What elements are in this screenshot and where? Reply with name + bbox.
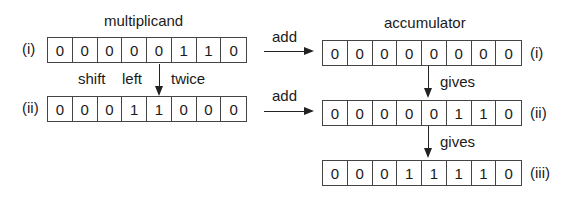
bit-cell: 0	[221, 38, 246, 62]
bit-cell: 0	[397, 41, 422, 65]
bit-cell: 0	[147, 38, 172, 62]
multiplicand-register-i: 0 0 0 0 0 1 1 0	[47, 37, 247, 63]
add-label-i: add	[272, 28, 297, 45]
bit-cell: 0	[496, 101, 521, 125]
bit-cell: 0	[48, 97, 73, 121]
bit-cell: 0	[472, 41, 497, 65]
bit-cell: 0	[496, 41, 521, 65]
gives-label-2: gives	[440, 133, 475, 150]
accumulator-row-label-ii: (ii)	[530, 104, 547, 121]
bit-cell: 1	[197, 38, 222, 62]
accumulator-row-label-i: (i)	[530, 44, 543, 61]
accumulator-register-iii: 0 0 0 1 1 1 1 0	[322, 160, 522, 186]
bit-cell: 0	[397, 101, 422, 125]
bit-cell: 1	[397, 161, 422, 185]
accumulator-register-i: 0 0 0 0 0 0 0 0	[322, 40, 522, 66]
bit-cell: 1	[122, 97, 147, 121]
add-arrow-ii-icon	[264, 111, 312, 112]
bit-cell: 1	[147, 97, 172, 121]
bit-cell: 1	[472, 101, 497, 125]
bit-cell: 0	[323, 41, 348, 65]
bit-cell: 0	[422, 101, 447, 125]
multiplicand-row-label-i: (i)	[22, 40, 35, 57]
bit-cell: 0	[98, 97, 123, 121]
bit-cell: 0	[373, 101, 398, 125]
bit-cell: 0	[373, 41, 398, 65]
add-arrow-i-icon	[264, 51, 312, 52]
bit-cell: 0	[348, 41, 373, 65]
multiplicand-row-label-ii: (ii)	[22, 99, 39, 116]
multiplicand-register-ii: 0 0 0 1 1 0 0 0	[47, 96, 247, 122]
bit-cell: 0	[323, 161, 348, 185]
bit-cell: 0	[496, 161, 521, 185]
bit-cell: 1	[447, 161, 472, 185]
bit-cell: 1	[472, 161, 497, 185]
left-label: left	[122, 70, 142, 87]
multiplicand-title: multiplicand	[104, 12, 183, 29]
bit-cell: 0	[373, 161, 398, 185]
bit-cell: 0	[48, 38, 73, 62]
gives-arrow-1-icon	[428, 66, 429, 96]
shift-down-arrow-icon	[159, 64, 160, 94]
accumulator-title: accumulator	[384, 14, 466, 31]
bit-cell: 0	[348, 161, 373, 185]
accumulator-row-label-iii: (iii)	[530, 164, 550, 181]
accumulator-register-ii: 0 0 0 0 0 1 1 0	[322, 100, 522, 126]
gives-label-1: gives	[440, 73, 475, 90]
add-label-ii: add	[272, 87, 297, 104]
bit-cell: 0	[422, 41, 447, 65]
bit-cell: 0	[221, 97, 246, 121]
bit-cell: 1	[172, 38, 197, 62]
bit-cell: 0	[122, 38, 147, 62]
bit-cell: 0	[98, 38, 123, 62]
bit-cell: 1	[422, 161, 447, 185]
bit-cell: 0	[172, 97, 197, 121]
bit-cell: 0	[197, 97, 222, 121]
bit-cell: 0	[348, 101, 373, 125]
gives-arrow-2-icon	[428, 126, 429, 156]
bit-cell: 0	[73, 97, 98, 121]
bit-cell: 1	[447, 101, 472, 125]
shift-label: shift	[78, 70, 106, 87]
bit-cell: 0	[323, 101, 348, 125]
bit-cell: 0	[447, 41, 472, 65]
twice-label: twice	[171, 70, 205, 87]
bit-cell: 0	[73, 38, 98, 62]
